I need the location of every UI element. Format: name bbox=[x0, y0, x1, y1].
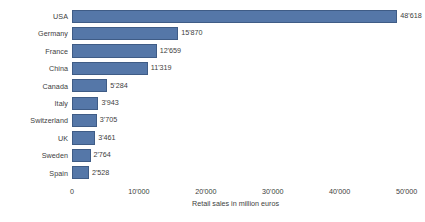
chart-bar-row: Sweden2'764 bbox=[0, 147, 425, 164]
bar-category-label: UK bbox=[0, 135, 68, 142]
bar-track: 11'319 bbox=[72, 60, 425, 77]
bar bbox=[72, 114, 97, 127]
chart-bar-row: Spain2'528 bbox=[0, 165, 425, 182]
bar-category-label: Switzerland bbox=[0, 117, 68, 124]
bar bbox=[72, 79, 107, 92]
bar bbox=[72, 10, 397, 23]
x-axis-tick-label: 30'000 bbox=[262, 188, 283, 195]
chart-bar-row: Italy3'943 bbox=[0, 95, 425, 112]
chart-bar-row: France12'659 bbox=[0, 43, 425, 60]
bar bbox=[72, 166, 89, 179]
bar-category-label: France bbox=[0, 48, 68, 55]
chart-bar-row: UK3'461 bbox=[0, 130, 425, 147]
bar bbox=[72, 149, 91, 162]
chart-bar-row: China11'319 bbox=[0, 60, 425, 77]
bar-track: 3'943 bbox=[72, 95, 425, 112]
bar-category-label: Sweden bbox=[0, 152, 68, 159]
bar-track: 15'870 bbox=[72, 25, 425, 42]
bar bbox=[72, 62, 148, 75]
bar-track: 2'528 bbox=[72, 165, 425, 182]
bar-value-label: 2'528 bbox=[92, 169, 109, 176]
x-axis-tick-label: 20'000 bbox=[195, 188, 216, 195]
x-axis-tick-label: 10'000 bbox=[128, 188, 149, 195]
bar-track: 12'659 bbox=[72, 43, 425, 60]
bar bbox=[72, 131, 95, 144]
bar bbox=[72, 27, 178, 40]
bar-category-label: Germany bbox=[0, 30, 68, 37]
x-axis-title: Retail sales in million euros bbox=[0, 200, 425, 207]
bar-value-label: 11'319 bbox=[151, 64, 172, 71]
bar-track: 48'618 bbox=[72, 8, 425, 25]
x-axis-tick-label: 50'000 bbox=[396, 188, 417, 195]
bar-category-label: USA bbox=[0, 13, 68, 20]
x-axis-title-text: Retail sales in million euros bbox=[146, 200, 279, 207]
bar-category-label: Italy bbox=[0, 100, 68, 107]
chart-plot-area: USA48'618Germany15'870France12'659China1… bbox=[0, 8, 425, 182]
bar-category-label: Canada bbox=[0, 83, 68, 90]
bar-value-label: 12'659 bbox=[160, 47, 181, 54]
bar-value-label: 5'284 bbox=[110, 82, 127, 89]
bar-value-label: 15'870 bbox=[181, 29, 202, 36]
bar-value-label: 3'461 bbox=[98, 134, 115, 141]
bar bbox=[72, 44, 157, 57]
bar-track: 2'764 bbox=[72, 147, 425, 164]
bar-track: 5'284 bbox=[72, 78, 425, 95]
bar bbox=[72, 97, 98, 110]
x-axis-tick-label: 40'000 bbox=[329, 188, 350, 195]
bar-value-label: 3'943 bbox=[101, 99, 118, 106]
bar-value-label: 2'764 bbox=[94, 151, 111, 158]
chart-bar-row: Switzerland3'705 bbox=[0, 112, 425, 129]
chart-bar-row: Germany15'870 bbox=[0, 25, 425, 42]
bar-track: 3'461 bbox=[72, 130, 425, 147]
bar-value-label: 3'705 bbox=[100, 116, 117, 123]
horizontal-bar-chart: USA48'618Germany15'870France12'659China1… bbox=[0, 0, 425, 222]
chart-bar-row: USA48'618 bbox=[0, 8, 425, 25]
x-axis-tick-label: 0 bbox=[70, 188, 74, 195]
bar-category-label: China bbox=[0, 65, 68, 72]
bar-value-label: 48'618 bbox=[400, 12, 421, 19]
bar-track: 3'705 bbox=[72, 112, 425, 129]
bar-category-label: Spain bbox=[0, 170, 68, 177]
chart-bar-row: Canada5'284 bbox=[0, 78, 425, 95]
